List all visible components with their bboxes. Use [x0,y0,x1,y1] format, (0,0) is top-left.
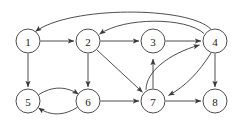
edge-4-to-7 [169,53,212,96]
node-3[interactable]: 3 [141,29,165,53]
node-5-label: 5 [25,96,31,108]
node-7[interactable]: 7 [141,89,165,113]
edge-layer [28,12,215,114]
node-8-label: 8 [212,96,218,108]
node-1[interactable]: 1 [16,29,40,53]
node-6-label: 6 [85,96,91,108]
graph-canvas: 1 2 3 4 5 6 7 [0,0,241,122]
node-2-label: 2 [85,36,91,48]
node-3-label: 3 [150,36,156,48]
node-4[interactable]: 4 [203,29,227,53]
edge-6-to-5 [39,107,78,114]
edge-2-to-7 [97,50,143,92]
node-4-label: 4 [212,36,218,48]
edge-5-to-6 [39,88,79,95]
node-8[interactable]: 8 [203,89,227,113]
node-2[interactable]: 2 [76,29,100,53]
node-6[interactable]: 6 [76,89,100,113]
node-1-label: 1 [25,36,31,48]
edge-4-to-1 [36,12,212,31]
node-layer: 1 2 3 4 5 6 7 [16,29,227,113]
node-7-label: 7 [150,96,156,108]
node-5[interactable]: 5 [16,89,40,113]
directed-graph-figure: 1 2 3 4 5 6 7 [0,0,241,122]
